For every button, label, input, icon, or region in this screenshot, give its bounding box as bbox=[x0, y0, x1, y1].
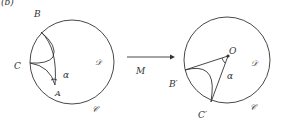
geodesic-bc bbox=[30, 32, 54, 63]
right-figure: O B′ C′ α 𝒟 𝒞 bbox=[168, 17, 270, 120]
label-domain-right: 𝒟 bbox=[251, 59, 259, 68]
label-c: C bbox=[14, 61, 21, 71]
label-circle-left: 𝒞 bbox=[92, 105, 100, 114]
diagram-canvas: (b) B C A α 𝒟 𝒞 M O B′ C′ bbox=[0, 0, 284, 127]
radius-ob bbox=[185, 56, 228, 70]
angle-alpha-marker-left bbox=[51, 79, 57, 80]
angle-alpha-marker-right bbox=[222, 58, 225, 63]
label-circle-right: 𝒞 bbox=[250, 103, 258, 112]
label-alpha-left: α bbox=[63, 70, 69, 80]
label-a: A bbox=[54, 89, 61, 98]
geodesic-ba bbox=[41, 32, 55, 85]
label-domain-left: 𝒟 bbox=[95, 58, 103, 67]
label-b-prime: B′ bbox=[168, 79, 178, 89]
label-b: B bbox=[33, 9, 41, 19]
panel-label: (b) bbox=[1, 0, 14, 7]
label-alpha-right: α bbox=[227, 71, 233, 81]
arrow-head-icon bbox=[170, 55, 175, 60]
left-unit-circle bbox=[30, 20, 114, 104]
label-map-m: M bbox=[135, 66, 146, 76]
map-arrow: M bbox=[127, 55, 175, 77]
label-c-prime: C′ bbox=[198, 110, 207, 120]
label-o: O bbox=[229, 46, 237, 56]
radius-oc bbox=[211, 56, 228, 102]
geodesic-bc-prime bbox=[185, 68, 212, 102]
left-figure: B C A α 𝒟 𝒞 bbox=[14, 9, 114, 114]
geodesic-ca bbox=[30, 63, 55, 85]
